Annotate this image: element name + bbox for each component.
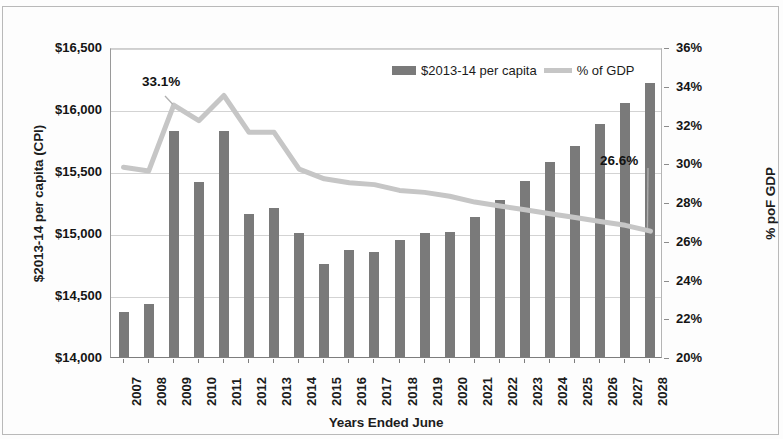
y-axis-left-tick-label: $15,000: [30, 226, 102, 241]
y-axis-right-tick-label: 32%: [676, 118, 736, 133]
x-axis-tick-label: 2018: [405, 377, 420, 406]
y-axis-right-tick-mark: [664, 319, 669, 320]
x-axis-tick-label: 2013: [279, 377, 294, 406]
x-axis-tick-label: 2012: [254, 377, 269, 406]
x-axis-tick-label: 2021: [480, 377, 495, 406]
legend-entry-line: % of GDP: [544, 63, 635, 78]
x-axis-tick-label: 2008: [154, 377, 169, 406]
x-axis-tick-mark: [223, 359, 224, 363]
x-axis-tick-mark: [148, 359, 149, 363]
x-axis-tick-label: 2009: [179, 377, 194, 406]
x-axis-title: Years Ended June: [110, 415, 662, 430]
x-axis-tick-mark: [499, 359, 500, 363]
x-axis-tick-label: 2022: [505, 377, 520, 406]
bar: [119, 312, 129, 357]
legend-label-line: % of GDP: [577, 63, 635, 78]
legend-label-bar: $2013-14 per capita: [421, 63, 537, 78]
bar: [244, 214, 254, 357]
x-axis-tick-label: 2014: [304, 377, 319, 406]
x-axis-tick-label: 2028: [655, 377, 670, 406]
y-axis-right-tick-mark: [664, 358, 669, 359]
bar: [294, 233, 304, 357]
y-axis-right-tick-label: 30%: [676, 156, 736, 171]
chart-figure: $2013-14 per capita (CPI) % poF GDP Year…: [0, 0, 783, 439]
x-axis-tick-mark: [248, 359, 249, 363]
x-axis-tick-mark: [524, 359, 525, 363]
chart-legend: $2013-14 per capita % of GDP: [390, 62, 636, 79]
x-axis-tick-label: 2027: [630, 377, 645, 406]
x-axis-tick-mark: [599, 359, 600, 363]
y-axis-right-tick-label: 34%: [676, 79, 736, 94]
bar-swatch-icon: [392, 66, 416, 75]
gridline: [111, 111, 661, 112]
x-axis-tick-mark: [474, 359, 475, 363]
x-axis-tick-mark: [348, 359, 349, 363]
x-axis-tick-mark: [123, 359, 124, 363]
x-axis-tick-label: 2017: [379, 377, 394, 406]
bar: [495, 200, 505, 357]
y-axis-right-tick-mark: [664, 281, 669, 282]
x-axis-tick-mark: [624, 359, 625, 363]
y-axis-right-tick-label: 20%: [676, 350, 736, 365]
x-axis-tick-mark: [424, 359, 425, 363]
y-axis-left-tick-label: $15,500: [30, 164, 102, 179]
x-axis-tick-mark: [399, 359, 400, 363]
y-axis-right-tick-mark: [664, 48, 669, 49]
bar: [319, 264, 329, 357]
x-axis-tick-mark: [298, 359, 299, 363]
x-axis-tick-label: 2024: [555, 377, 570, 406]
x-axis-tick-label: 2019: [430, 377, 445, 406]
y-axis-right-tick-label: 26%: [676, 234, 736, 249]
y-axis-left-tick-label: $14,500: [30, 288, 102, 303]
bar: [545, 162, 555, 357]
plot-area: [110, 48, 662, 358]
bar: [620, 103, 630, 357]
y-axis-left-tick-label: $16,500: [30, 40, 102, 55]
bar: [269, 208, 279, 357]
bar: [520, 181, 530, 357]
bar: [645, 83, 655, 357]
x-axis-tick-label: 2007: [129, 377, 144, 406]
gridline: [111, 49, 661, 50]
y-axis-right-tick-label: 28%: [676, 195, 736, 210]
x-axis-tick-mark: [449, 359, 450, 363]
x-axis-tick-label: 2011: [229, 378, 244, 406]
y-axis-right-tick-mark: [664, 242, 669, 243]
bar: [194, 182, 204, 357]
bar: [470, 217, 480, 357]
bar: [570, 146, 580, 357]
x-axis-tick-mark: [173, 359, 174, 363]
y-axis-right-title: % poF GDP: [763, 84, 778, 324]
x-axis-tick-label: 2020: [455, 377, 470, 406]
x-axis-tick-mark: [373, 359, 374, 363]
y-axis-right-tick-mark: [664, 203, 669, 204]
bar: [395, 240, 405, 357]
x-axis-tick-label: 2025: [580, 377, 595, 406]
x-axis-tick-label: 2015: [329, 377, 344, 406]
bar: [420, 233, 430, 357]
line-swatch-icon: [544, 68, 572, 73]
x-axis-tick-mark: [273, 359, 274, 363]
y-axis-right-tick-label: 36%: [676, 40, 736, 55]
x-axis-tick-mark: [549, 359, 550, 363]
x-axis-tick-mark: [198, 359, 199, 363]
bar: [169, 131, 179, 357]
x-axis-tick-mark: [574, 359, 575, 363]
bar: [369, 252, 379, 357]
y-axis-left-tick-label: $16,000: [30, 102, 102, 117]
y-axis-right-tick-mark: [664, 126, 669, 127]
bar: [445, 232, 455, 357]
y-axis-left-tick-label: $14,000: [30, 350, 102, 365]
x-axis-tick-label: 2023: [530, 377, 545, 406]
x-axis-tick-label: 2026: [605, 377, 620, 406]
y-axis-right-tick-label: 22%: [676, 311, 736, 326]
y-axis-right-tick-mark: [664, 87, 669, 88]
x-axis-tick-mark: [649, 359, 650, 363]
legend-entry-bar: $2013-14 per capita: [392, 63, 537, 78]
annotation-end-value: 26.6%: [600, 153, 638, 168]
y-axis-right-tick-mark: [664, 164, 669, 165]
x-axis-tick-mark: [323, 359, 324, 363]
x-axis-tick-label: 2016: [354, 377, 369, 406]
x-axis-tick-label: 2010: [204, 377, 219, 406]
y-axis-right-tick-label: 24%: [676, 273, 736, 288]
